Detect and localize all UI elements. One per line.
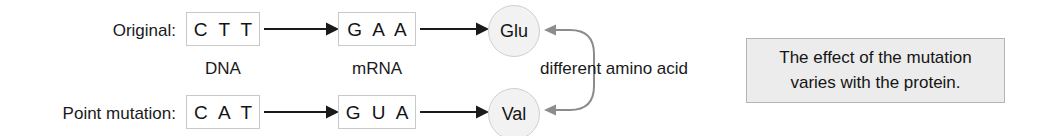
amino-acid-circle-glu: Glu [488, 5, 540, 57]
row-label-point-mutation: Point mutation: [0, 105, 176, 122]
connector-label-different-amino-acid: different amino acid [540, 60, 688, 77]
arrow-mrna-to-amino-acid-mutation [418, 101, 490, 123]
note-line-1: The effect of the mutation [779, 46, 971, 71]
dna-codon-mutation: C A T [186, 95, 260, 129]
note-callout-box: The effect of the mutation varies with t… [746, 38, 1005, 103]
mrna-codon-original: G A A [338, 12, 416, 46]
amino-acid-circle-val: Val [488, 88, 540, 136]
arrow-mrna-to-amino-acid-original [418, 18, 490, 40]
arrow-dna-to-mrna-original [262, 18, 340, 40]
note-line-2: varies with the protein. [790, 71, 960, 96]
mrna-codon-mutation: G U A [338, 95, 416, 129]
row-label-original: Original: [0, 22, 176, 39]
column-label-dna: DNA [186, 60, 260, 77]
mutation-diagram: Original: C T T G A A Glu DNA mRNA Point… [0, 0, 1039, 136]
column-label-mrna: mRNA [338, 60, 416, 77]
arrow-dna-to-mrna-mutation [262, 101, 340, 123]
dna-codon-original: C T T [186, 12, 260, 46]
